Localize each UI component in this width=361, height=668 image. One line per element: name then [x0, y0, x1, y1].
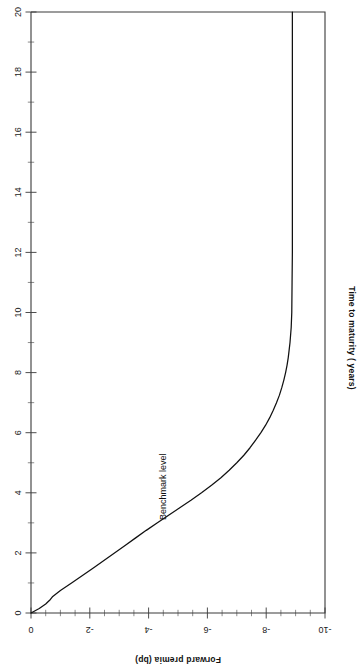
forward-premia-chart: 02468101214161820 0-2-4-6-8-10 Benchmark… — [0, 0, 361, 668]
benchmark-level-annotation: Benchmark level — [158, 454, 168, 521]
premia-axis-tick-label: -4 — [145, 625, 153, 635]
premia-axis-tick-label: -6 — [203, 625, 211, 635]
premia-axis-tick-label: -8 — [262, 625, 270, 635]
time-axis-tick-label: 6 — [13, 430, 23, 435]
time-axis-tick-label: 0 — [13, 610, 23, 615]
time-axis-tick-label: 8 — [13, 370, 23, 375]
chart-background — [0, 0, 361, 668]
chart-figure: 02468101214161820 0-2-4-6-8-10 Benchmark… — [0, 0, 361, 668]
time-axis-tick-label: 18 — [13, 67, 23, 77]
time-axis-tick-label: 20 — [13, 7, 23, 17]
time-axis-tick-label: 16 — [13, 127, 23, 137]
premia-axis-tick-label: 0 — [28, 625, 33, 635]
time-axis-tick-label: 12 — [13, 247, 23, 257]
premia-axis-tick-label: -2 — [86, 625, 94, 635]
premia-axis-tick-label: -10 — [318, 625, 331, 635]
time-axis-tick-label: 10 — [13, 307, 23, 317]
time-axis-title: Time to maturity ( years) — [347, 286, 357, 390]
time-axis-tick-label: 14 — [13, 187, 23, 197]
time-axis-tick-label: 4 — [13, 490, 23, 495]
time-axis-tick-label: 2 — [13, 550, 23, 555]
premia-axis-title: Forward premia (bp) — [135, 655, 221, 665]
